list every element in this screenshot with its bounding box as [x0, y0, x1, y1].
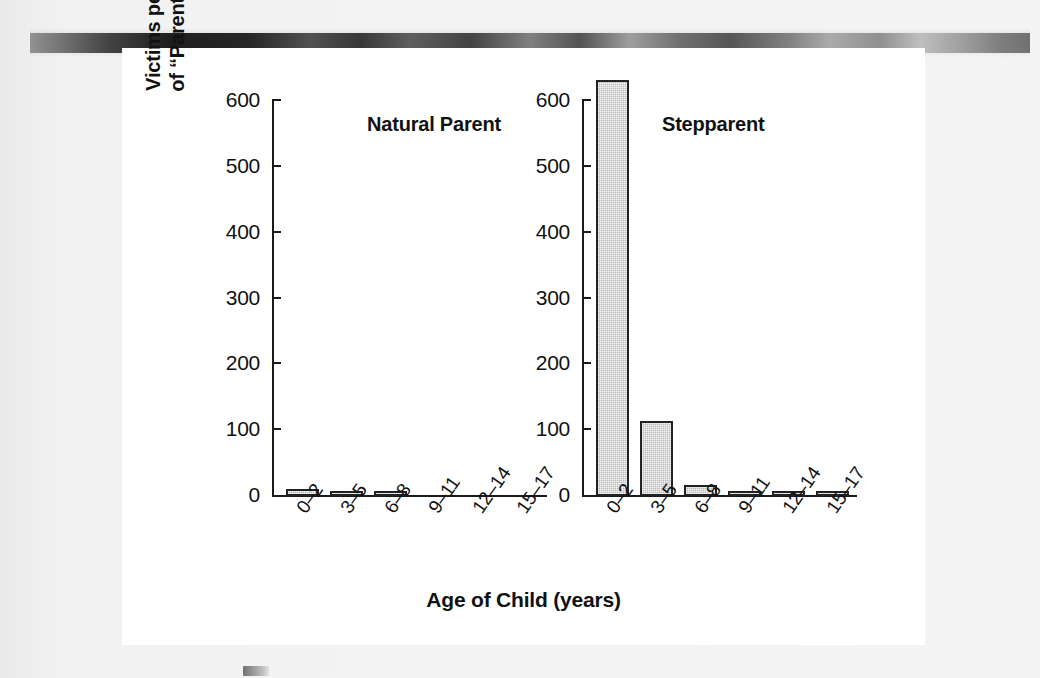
scan-artifact-mark	[243, 666, 269, 676]
y-axis-tick-label: 200	[204, 352, 260, 373]
y-axis-tick-label: 200	[514, 352, 570, 373]
y-axis-tick-label: 400	[204, 221, 260, 242]
y-axis-tick-label: 300	[204, 287, 260, 308]
y-axis-tick-label: 400	[514, 221, 570, 242]
x-axis-title: Age of Child (years)	[122, 588, 925, 612]
y-axis-title-line-1: Victims per Million Child-Years	[142, 0, 166, 148]
y-axis-tick-label: 0	[514, 484, 570, 505]
y-axis-tick-label: 100	[204, 418, 260, 439]
y-axis-tick-label: 600	[514, 89, 570, 110]
y-axis-tick-label: 100	[514, 418, 570, 439]
bar-0-2	[596, 80, 629, 496]
chart-panel-1: 0100200300400500600Natural Parent0–23–56…	[272, 48, 547, 645]
bar-group	[582, 48, 857, 496]
scan-page: Victims per Million Child-Years of “Pare…	[0, 0, 1040, 678]
bar-group	[272, 48, 547, 496]
y-axis-tick-label: 0	[204, 484, 260, 505]
y-axis-tick-label: 600	[204, 89, 260, 110]
y-axis-tick-label: 300	[514, 287, 570, 308]
y-axis-tick-label: 500	[514, 155, 570, 176]
figure-card: Victims per Million Child-Years of “Pare…	[122, 48, 925, 645]
y-axis-title: Victims per Million Child-Years of “Pare…	[142, 0, 189, 148]
chart-panel-2: 0100200300400500600Stepparent0–23–56–89–…	[582, 48, 857, 645]
y-axis-title-line-2: of “Parent”–Child Coresidence	[166, 0, 190, 148]
y-axis-tick-label: 500	[204, 155, 260, 176]
